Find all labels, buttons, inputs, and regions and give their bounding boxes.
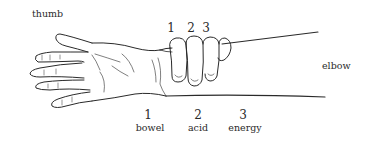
position-1-name: bowel [136,123,165,133]
hand-drawing [0,0,365,144]
position-3-number: 3 [239,109,247,121]
finger-1 [170,38,187,82]
position-3-name: energy [228,123,261,133]
position-1-number: 1 [144,109,152,121]
finger-4 [218,38,231,61]
finger-number-2: 2 [187,22,195,34]
finger-number-1: 1 [167,22,175,34]
forearm-lower-edge [166,95,325,97]
position-2-name: acid [188,123,208,133]
forearm-upper-edge [222,32,318,44]
thumb-label: thumb [32,9,63,19]
finger-3 [203,37,219,81]
elbow-label: elbow [322,61,351,71]
finger-number-3: 3 [202,22,210,34]
position-2-number: 2 [194,109,202,121]
finger-2 [186,36,203,86]
